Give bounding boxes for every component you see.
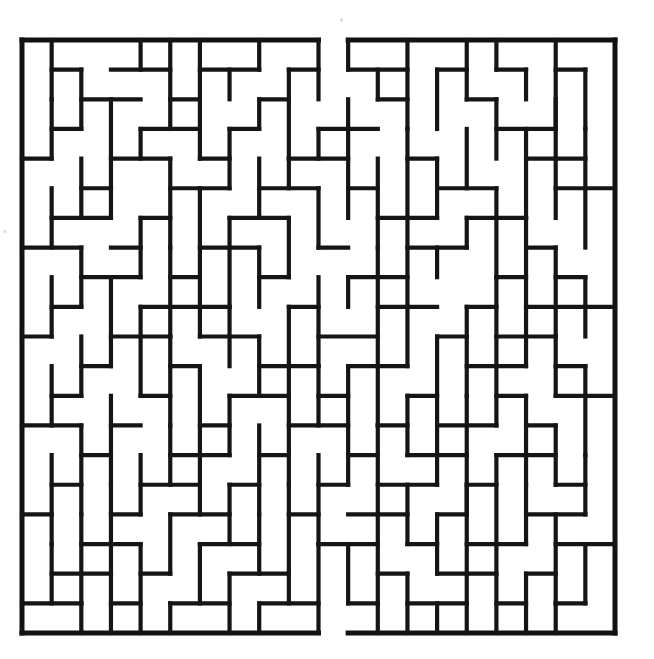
- maze-canvas: [0, 0, 654, 659]
- scanned-page: [0, 0, 654, 659]
- maze-wall-group: [22, 40, 615, 633]
- maze-figure: [0, 0, 654, 659]
